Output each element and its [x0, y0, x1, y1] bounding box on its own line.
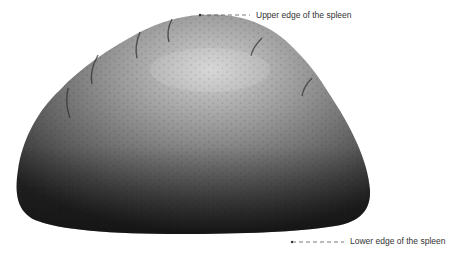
upper-edge-label: Upper edge of the spleen [256, 10, 351, 20]
spleen-diagram [0, 0, 456, 254]
lower-edge-label: Lower edge of the spleen [350, 236, 445, 246]
spleen-organ [17, 14, 370, 234]
